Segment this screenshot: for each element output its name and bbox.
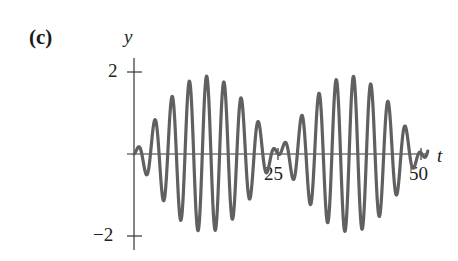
plot-area bbox=[0, 0, 458, 261]
